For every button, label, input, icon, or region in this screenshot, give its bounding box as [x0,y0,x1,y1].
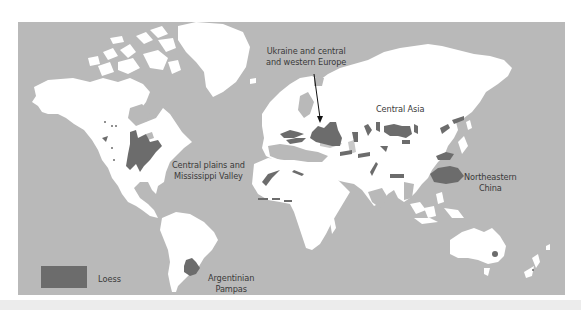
land-southeast-asia-islands [410,192,464,224]
legend-swatch-loess [41,266,87,288]
label-north-america: Central plains and Mississippi Valley [172,160,245,182]
label-argentina: Argentinian Pampas [208,273,254,295]
land-arctic-islands [88,26,181,76]
label-europe: Ukraine and central and western Europe [266,46,346,68]
world-map: Ukraine and central and western Europe C… [18,22,565,295]
label-central-asia: Central Asia [376,104,424,115]
land-new-zealand [532,254,540,268]
land-greenland [178,22,250,97]
loess-northeastern-china [430,166,464,184]
bottom-strip [0,300,581,310]
legend-label-loess: Loess [98,274,121,284]
label-china: Northeastern China [464,172,517,194]
land-australia [450,228,506,264]
loess-australia [492,251,498,257]
